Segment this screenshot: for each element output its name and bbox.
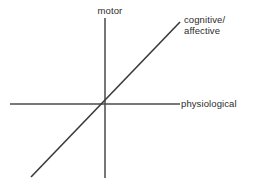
diagonal-line-label-line2: affective [184,25,225,36]
diagonal-line-label-line1: cognitive/ [184,14,225,25]
diagonal-line-label: cognitive/ affective [184,14,225,36]
vertical-axis-label: motor [88,5,132,16]
axes-diagram: motor cognitive/ affective physiological [0,0,257,189]
horizontal-axis-label: physiological [181,98,237,109]
